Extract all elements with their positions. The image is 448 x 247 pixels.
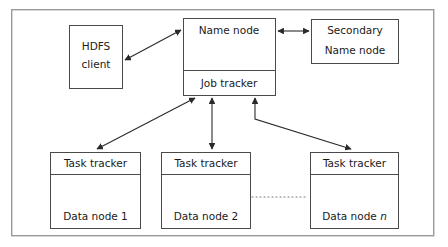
diagram-canvas: HDFS client Name node Job tracker Second…	[0, 0, 448, 247]
task-tracker-n-footer-prefix: Data node	[322, 210, 380, 222]
hdfs-client-label-line2: client	[82, 58, 111, 70]
connector-job-tracker-to-task-tracker-1	[97, 98, 195, 149]
secondary-name-node-label-line1: Secondary	[327, 24, 383, 36]
job-tracker-label: Job tracker	[200, 77, 258, 89]
task-tracker-1-footer-label: Data node 1	[63, 210, 128, 222]
node-hdfs-client: HDFS client	[70, 26, 123, 89]
name-node-label: Name node	[199, 24, 260, 36]
node-task-tracker-n: Task tracker Data node n	[311, 153, 399, 229]
node-secondary-name-node: Secondary Name node	[312, 20, 399, 64]
hdfs-client-box	[70, 26, 123, 89]
node-task-tracker-2: Task tracker Data node 2	[162, 153, 251, 229]
hdfs-client-label-line1: HDFS	[82, 40, 111, 52]
connector-job-tracker-to-task-tracker-n	[255, 98, 351, 149]
task-tracker-n-footer-label: Data node n	[322, 210, 387, 222]
task-tracker-1-header-label: Task tracker	[63, 157, 128, 169]
task-tracker-2-header-label: Task tracker	[173, 157, 238, 169]
node-name-node-group: Name node Job tracker	[184, 19, 276, 96]
task-tracker-n-footer-index: n	[380, 210, 387, 222]
task-tracker-n-header-label: Task tracker	[322, 157, 387, 169]
node-task-tracker-1: Task tracker Data node 1	[51, 153, 141, 229]
connector-hdfs-client-to-name-node	[125, 30, 181, 60]
secondary-name-node-label-line2: Name node	[325, 44, 386, 56]
task-tracker-2-footer-label: Data node 2	[174, 210, 239, 222]
hadoop-architecture-diagram: HDFS client Name node Job tracker Second…	[0, 0, 448, 247]
